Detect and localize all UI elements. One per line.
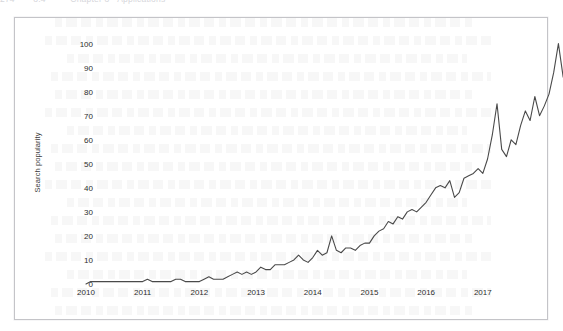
x-tick-label: 2011 — [123, 288, 163, 297]
x-axis-tick-labels: 20102011201220132014201520162017 — [15, 288, 549, 304]
x-tick-label: 2012 — [179, 288, 219, 297]
x-tick-label: 2015 — [349, 288, 389, 297]
x-tick-label: 2014 — [293, 288, 333, 297]
figure-frame: Search popularity 0102030405060708090100… — [14, 17, 548, 320]
section-number: 8.4 — [33, 0, 45, 4]
page-running-head: 274 8.4 Chapter 8 · Applications — [0, 0, 563, 4]
page-number: 274 — [0, 0, 15, 4]
running-head-text: Chapter 8 · Applications — [70, 0, 165, 4]
x-tick-label: 2016 — [406, 288, 446, 297]
series-polyline — [86, 44, 563, 284]
chart-plot-area: Search popularity 0102030405060708090100… — [15, 18, 549, 321]
x-tick-label: 2010 — [66, 288, 106, 297]
series-line-chart — [15, 18, 549, 321]
x-tick-label: 2017 — [463, 288, 503, 297]
x-tick-label: 2013 — [236, 288, 276, 297]
